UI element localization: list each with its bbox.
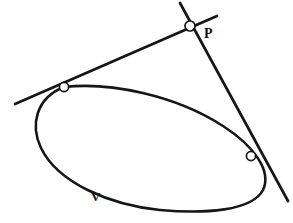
geometry-figure: P V xyxy=(0,0,293,223)
tangent-line-right xyxy=(180,3,288,201)
figure-canvas: P V xyxy=(0,0,293,223)
tangent-point-right-marker xyxy=(246,151,255,160)
tangent-point-left-marker xyxy=(59,82,68,91)
curve-v xyxy=(36,86,265,212)
label-point-p: P xyxy=(204,26,213,41)
label-curve-v: V xyxy=(91,189,101,204)
external-point-p-marker xyxy=(185,21,195,31)
